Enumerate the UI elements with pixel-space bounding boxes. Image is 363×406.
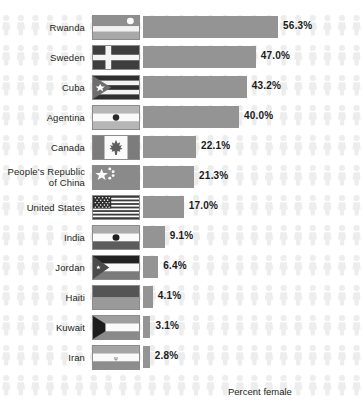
flag-cell xyxy=(91,313,143,341)
country-label-line1: Jordan xyxy=(55,262,85,273)
country-label-line1: Kuwait xyxy=(56,322,85,333)
flag-rwanda-icon xyxy=(92,15,140,40)
bar-value-label: 56.3% xyxy=(283,20,312,31)
country-label: Canada xyxy=(0,142,91,153)
country-label-line1: Rwanda xyxy=(50,22,85,33)
bar-cell: 40.0% xyxy=(143,103,363,131)
chart-row: Agentina 40.0% xyxy=(0,102,363,132)
country-label-line1: Cuba xyxy=(62,82,85,93)
country-label: Cuba xyxy=(0,82,91,93)
value-bar xyxy=(143,76,247,98)
country-label: Sweden xyxy=(0,52,91,63)
chart-row: Haiti 4.1% xyxy=(0,282,363,312)
flag-cell xyxy=(91,163,143,191)
flag-cell xyxy=(91,193,143,221)
flag-india-icon xyxy=(92,225,140,250)
x-axis-label: Percent female xyxy=(228,386,292,397)
bar-value-label: 21.3% xyxy=(199,170,228,181)
flag-haiti-icon xyxy=(92,285,140,310)
chart-row: United States xyxy=(0,192,363,222)
country-label: Agentina xyxy=(0,112,91,123)
bar-value-label: 4.1% xyxy=(158,290,182,301)
country-label: People's Republicof China xyxy=(0,166,91,188)
flag-cell xyxy=(91,253,143,281)
value-bar xyxy=(143,286,153,308)
bar-cell: 4.1% xyxy=(143,283,363,311)
bar-value-label: 40.0% xyxy=(244,110,273,121)
country-label-line2: of China xyxy=(0,177,85,188)
bar-cell: 17.0% xyxy=(143,193,363,221)
country-label: Haiti xyxy=(0,292,91,303)
country-label-line1: Agentina xyxy=(47,112,85,123)
chart-row: Cuba 43.2% xyxy=(0,72,363,102)
country-label-line1: United States xyxy=(27,202,85,213)
flag-united-states-icon xyxy=(92,195,140,220)
flag-iran-icon: ψ xyxy=(92,345,140,370)
bar-cell: 2.8% xyxy=(143,343,363,371)
bar-cell: 43.2% xyxy=(143,73,363,101)
bar-cell: 9.1% xyxy=(143,223,363,251)
flag-cell xyxy=(91,283,143,311)
chart-row: Iran ψ 2.8% xyxy=(0,342,363,372)
bar-value-label: 2.8% xyxy=(155,350,179,361)
value-bar xyxy=(143,136,196,158)
country-label-line1: Iran xyxy=(68,352,85,363)
country-label: Kuwait xyxy=(0,322,91,333)
bar-cell: 22.1% xyxy=(143,133,363,161)
chart-row: Rwanda 56.3% xyxy=(0,12,363,42)
bar-cell: 47.0% xyxy=(143,43,363,71)
bar-value-label: 3.1% xyxy=(155,320,179,331)
bar-cell: 21.3% xyxy=(143,163,363,191)
flag-kuwait-icon xyxy=(92,315,140,340)
country-label: United States xyxy=(0,202,91,213)
percent-female-bar-chart: Rwanda 56.3%Sweden 47.0%Cuba 43.2%Agenti… xyxy=(0,0,363,406)
chart-row: People's Republicof China 21.3% xyxy=(0,162,363,192)
country-label-line1: Canada xyxy=(51,142,85,153)
bar-value-label: 22.1% xyxy=(201,140,230,151)
bar-value-label: 43.2% xyxy=(252,80,281,91)
svg-text:ψ: ψ xyxy=(114,355,118,362)
flag-cuba-icon xyxy=(92,75,140,100)
flag-cell xyxy=(91,43,143,71)
flag-cell xyxy=(91,73,143,101)
country-label-line1: Sweden xyxy=(50,52,85,63)
flag-cell xyxy=(91,223,143,251)
bar-cell: 3.1% xyxy=(143,313,363,341)
flag-cell: ψ xyxy=(91,343,143,371)
flag-jordan-icon xyxy=(92,255,140,280)
country-label: India xyxy=(0,232,91,243)
country-label-line1: Haiti xyxy=(65,292,85,303)
country-label: Iran xyxy=(0,352,91,363)
flag-sweden-icon xyxy=(92,45,140,70)
value-bar xyxy=(143,46,256,68)
value-bar xyxy=(143,226,165,248)
flag-cell xyxy=(91,13,143,41)
value-bar xyxy=(143,106,239,128)
chart-row: Kuwait 3.1% xyxy=(0,312,363,342)
country-label-line1: India xyxy=(64,232,85,243)
chart-row: Canada 22.1% xyxy=(0,132,363,162)
flag-argentina-icon xyxy=(92,105,140,130)
bar-value-label: 17.0% xyxy=(189,200,218,211)
flag-cell xyxy=(91,103,143,131)
bar-cell: 6.4% xyxy=(143,253,363,281)
flag-china-icon xyxy=(92,165,140,190)
flag-canada-icon xyxy=(92,135,140,160)
chart-row: India 9.1% xyxy=(0,222,363,252)
bar-value-label: 47.0% xyxy=(261,50,290,61)
bar-value-label: 6.4% xyxy=(163,260,187,271)
chart-rows: Rwanda 56.3%Sweden 47.0%Cuba 43.2%Agenti… xyxy=(0,0,363,406)
value-bar xyxy=(143,166,194,188)
flag-cell xyxy=(91,133,143,161)
bar-cell: 56.3% xyxy=(143,13,363,41)
chart-row: Sweden 47.0% xyxy=(0,42,363,72)
value-bar xyxy=(143,196,184,218)
chart-row: Jordan 6.4% xyxy=(0,252,363,282)
value-bar xyxy=(143,316,150,338)
value-bar xyxy=(143,346,150,368)
country-label: Jordan xyxy=(0,262,91,273)
country-label: Rwanda xyxy=(0,22,91,33)
country-label-line1: People's Republic xyxy=(8,166,85,177)
bar-value-label: 9.1% xyxy=(170,230,194,241)
value-bar xyxy=(143,16,278,38)
